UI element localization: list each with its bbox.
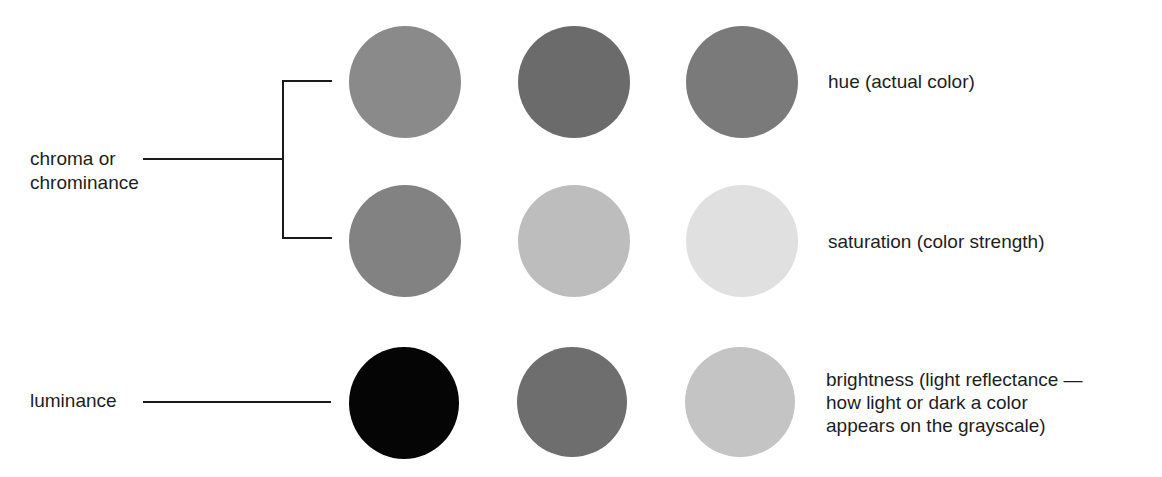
saturation-swatch-3 <box>686 185 798 297</box>
chroma-bracket-arm-hue <box>282 80 332 82</box>
saturation-swatch-1 <box>349 185 461 297</box>
saturation-swatch-2 <box>518 185 630 297</box>
brightness-swatch-3 <box>685 347 795 457</box>
hue-swatch-2 <box>518 26 630 138</box>
chroma-label-line-1: chroma or <box>30 147 116 171</box>
brightness-swatch-1 <box>349 347 459 459</box>
brightness-description-line-2: how light or dark a color <box>826 391 1028 415</box>
chroma-label-line-2: chrominance <box>30 171 139 195</box>
chroma-bracket-vertical <box>282 80 284 239</box>
saturation-description: saturation (color strength) <box>828 230 1045 254</box>
hue-description: hue (actual color) <box>828 70 975 94</box>
hue-swatch-3 <box>686 26 798 138</box>
brightness-description-line-3: appears on the grayscale) <box>826 414 1046 438</box>
hue-swatch-1 <box>349 26 461 138</box>
luminance-connector <box>143 401 331 403</box>
brightness-swatch-2 <box>517 347 627 457</box>
chroma-connector-stem <box>143 158 284 160</box>
brightness-description-line-1: brightness (light reflectance — <box>826 368 1083 392</box>
chroma-bracket-arm-saturation <box>282 237 332 239</box>
luminance-label: luminance <box>30 389 117 413</box>
